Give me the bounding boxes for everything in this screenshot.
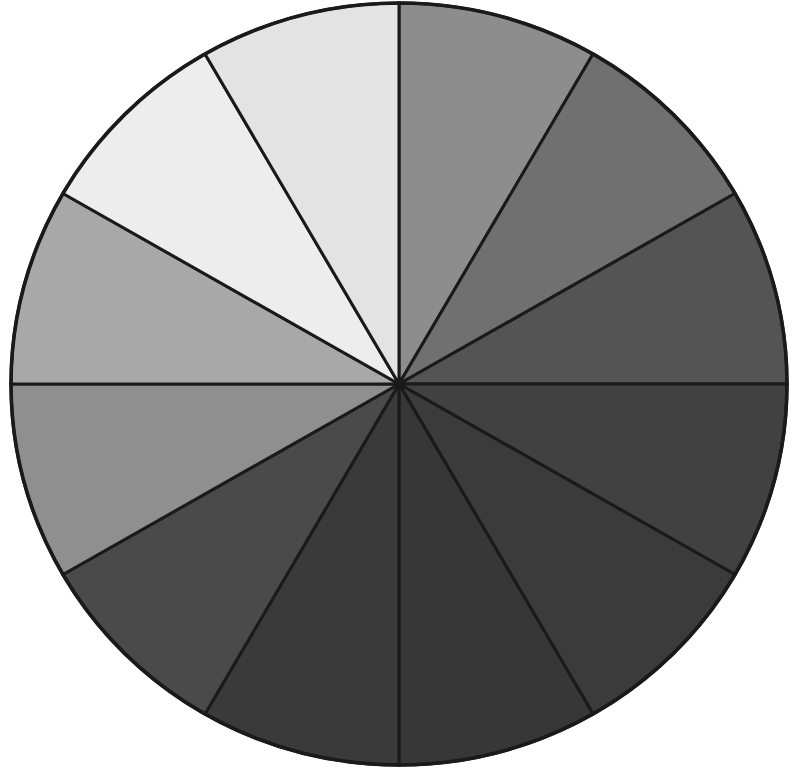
pie-slice-group: [11, 3, 787, 765]
figure-root: [0, 0, 795, 768]
pie-chart-svg: [0, 0, 795, 768]
